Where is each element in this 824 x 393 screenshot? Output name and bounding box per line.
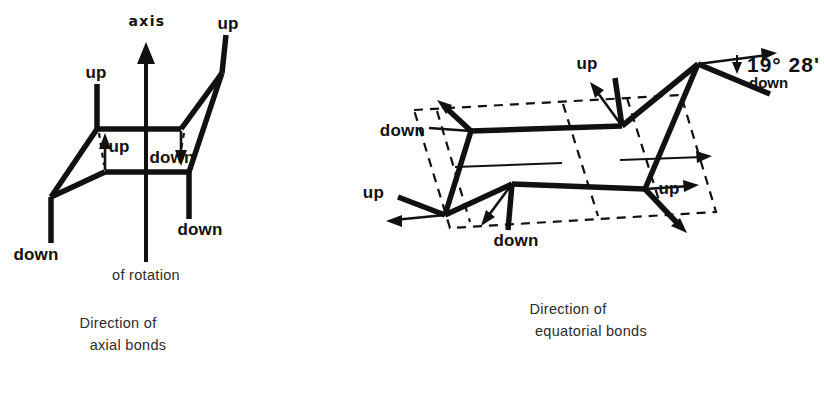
- equatorial-reference-ray-right: [620, 151, 712, 163]
- axial-caption-line1: Direction of: [80, 315, 158, 331]
- equatorial-caption-line1: Direction of: [530, 301, 608, 317]
- axis-arrowhead: [137, 42, 155, 64]
- axial-bond-up-topright: [222, 35, 226, 73]
- label-down-bottom-eq: down: [493, 231, 538, 250]
- label-up-inner: up: [108, 137, 129, 156]
- label-down-lowerleft: down: [13, 245, 58, 264]
- label-down-inner: down: [149, 148, 194, 167]
- label-up-right-eq: up: [658, 179, 679, 198]
- equatorial-panel: down up up down up 19° 28' down Directio…: [363, 48, 820, 339]
- label-up-upperleft: up: [85, 63, 106, 82]
- equatorial-bond-up-topmiddle: [590, 78, 622, 126]
- cyclohexane-conformation-figure: axis up up up down down down of rotation…: [0, 0, 824, 393]
- chair-ring-axial: [51, 73, 222, 197]
- equatorial-bond-down-upperleft: [429, 100, 471, 131]
- label-down-upperleft-eq: down: [380, 121, 425, 140]
- axis-label-top: axis: [128, 13, 165, 29]
- equatorial-caption-line2: equatorial bonds: [535, 323, 647, 339]
- label-up-topright: up: [217, 14, 238, 33]
- axial-caption-line2: axial bonds: [90, 337, 167, 353]
- equatorial-reference-ray-left: [455, 163, 562, 167]
- axial-panel: axis up up up down down down of rotation…: [13, 13, 238, 353]
- label-up-topmiddle-eq: up: [576, 54, 597, 73]
- angle-label: 19° 28': [747, 53, 820, 76]
- equatorial-bond-up-lowerleft: [386, 197, 445, 227]
- equatorial-bonds: [386, 48, 777, 233]
- axis-label-bottom: of rotation: [112, 267, 180, 283]
- angle-down-label: down: [749, 74, 788, 91]
- label-down-lowerright: down: [177, 220, 222, 239]
- label-up-left-eq: up: [363, 183, 384, 202]
